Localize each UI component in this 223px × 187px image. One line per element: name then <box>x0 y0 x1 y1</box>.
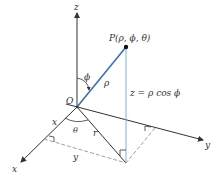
theta-label: θ <box>73 126 78 135</box>
phi-label: ϕ <box>84 72 90 82</box>
theta-arc <box>65 118 88 122</box>
z-equation-label: z = ρ cos ϕ <box>129 88 180 98</box>
origin-label: O <box>66 96 74 106</box>
y-segment-label: y <box>72 152 79 162</box>
right-angle-y <box>145 126 151 131</box>
right-angle-proj <box>120 150 126 156</box>
spherical-coordinates-diagram: z y x P(ρ, ϕ, θ) O ϕ ρ θ r x y z = ρ cos… <box>0 0 223 187</box>
origin-point <box>76 106 78 108</box>
rho-label: ρ <box>103 78 110 88</box>
x-segment-label: x <box>52 117 57 127</box>
r-label: r <box>93 128 98 138</box>
x-axis-label: x <box>12 164 17 174</box>
r-segment <box>77 107 126 163</box>
y-axis <box>66 104 203 140</box>
z-axis-label: z <box>73 2 79 12</box>
dashed-x-to-proj <box>44 139 126 163</box>
y-axis-label: y <box>204 140 211 150</box>
dashed-y-to-proj <box>126 128 155 163</box>
point-p <box>124 45 128 49</box>
point-label: P(ρ, ϕ, θ) <box>108 33 151 43</box>
x-axis <box>21 107 77 162</box>
